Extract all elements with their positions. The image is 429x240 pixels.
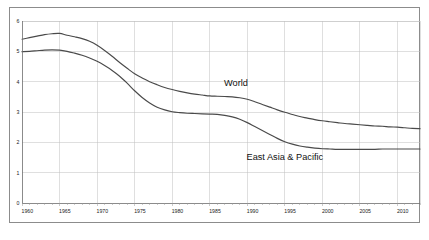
tick-label-layer: 0123456196019651970197519801985199019952… — [17, 18, 409, 214]
x-axis-tick-label: 1975 — [134, 208, 146, 214]
y-axis-tick-label: 0 — [17, 200, 20, 206]
axis-layer — [22, 21, 420, 206]
x-axis-tick-label: 1985 — [209, 208, 221, 214]
x-axis-tick-label: 1970 — [97, 208, 109, 214]
x-axis-tick-label: 1980 — [172, 208, 184, 214]
x-axis-tick-label: 1965 — [59, 208, 71, 214]
x-axis-tick-label: 1960 — [22, 208, 34, 214]
y-axis-tick-label: 3 — [17, 109, 20, 115]
grid-layer — [22, 21, 420, 203]
line-chart: 0123456196019651970197519801985199019952… — [0, 0, 429, 240]
x-axis-tick-label: 2000 — [322, 208, 334, 214]
chart-figure: 0123456196019651970197519801985199019952… — [0, 0, 429, 240]
series-annotation-label: World — [224, 78, 248, 88]
y-axis-tick-label: 4 — [17, 79, 20, 85]
x-axis-tick-label: 2010 — [397, 208, 409, 214]
y-axis-tick-label: 5 — [17, 48, 20, 54]
x-axis-tick-label: 2005 — [359, 208, 371, 214]
y-axis-tick-label: 6 — [17, 18, 20, 24]
series-line-2 — [22, 50, 420, 150]
y-axis-tick-label: 2 — [17, 139, 20, 145]
x-axis-tick-label: 1990 — [247, 208, 259, 214]
series-annotation-label: East Asia & Pacific — [247, 152, 324, 162]
series-layer — [22, 33, 420, 149]
y-axis-tick-label: 1 — [17, 170, 20, 176]
annotation-layer: WorldEast Asia & Pacific — [224, 78, 323, 162]
x-axis-tick-label: 1995 — [284, 208, 296, 214]
